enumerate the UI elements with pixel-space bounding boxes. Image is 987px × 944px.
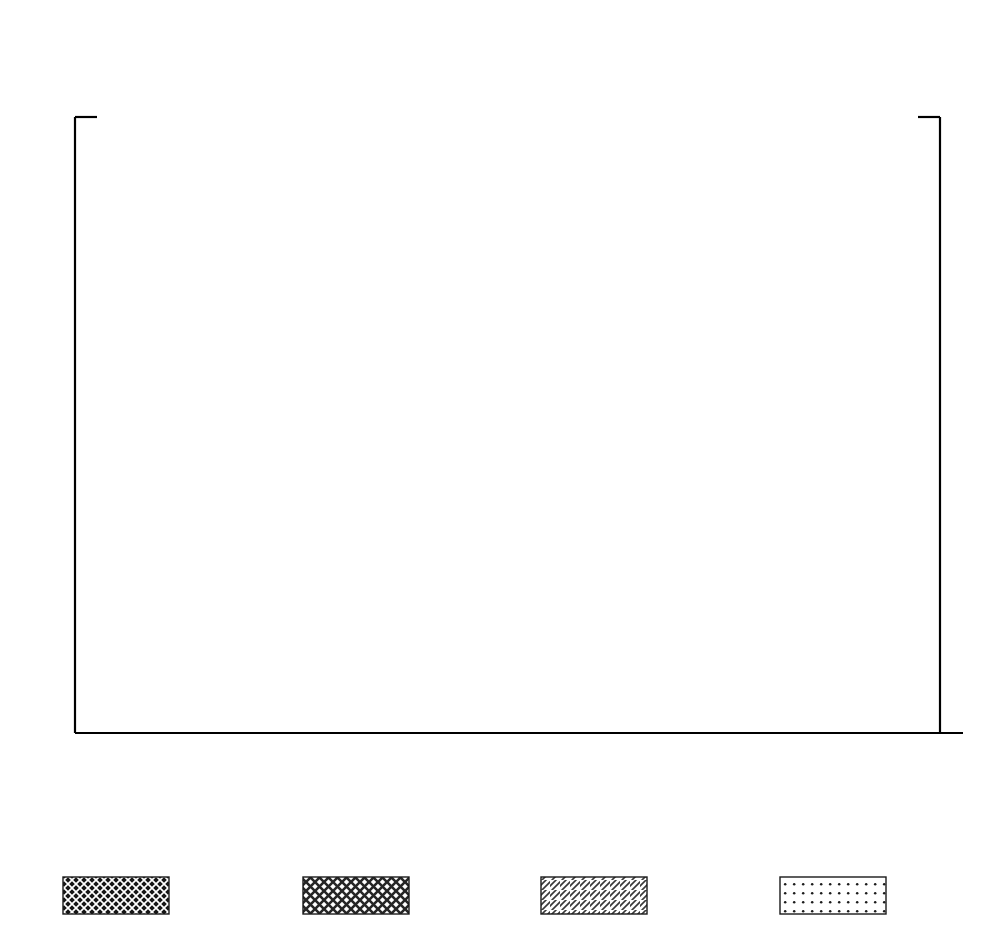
chart-background xyxy=(0,0,987,944)
legend-swatch-sehr-zufrieden xyxy=(63,877,169,914)
chart-figure xyxy=(0,0,987,944)
legend-swatch-unzufrieden xyxy=(780,877,886,914)
legend-swatch-weniger-zufrieden xyxy=(541,877,647,914)
legend-swatch-zufrieden xyxy=(303,877,409,914)
stacked-bar-chart xyxy=(0,0,987,944)
